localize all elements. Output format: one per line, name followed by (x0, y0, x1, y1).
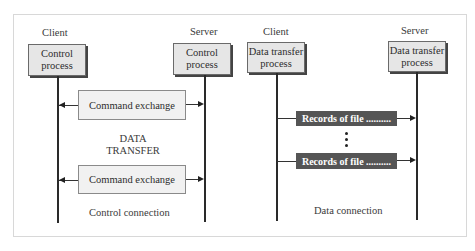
data-transfer-line2: TRANSFER (98, 145, 168, 157)
cmd2-right-arrow-icon (198, 176, 204, 182)
data-server-process-line1: Data transfer (390, 45, 445, 57)
control-server-label: Server (190, 26, 217, 37)
control-client-process-box: Control process (28, 44, 86, 76)
rec1-left-line (277, 118, 297, 119)
command-exchange-text-2: Command exchange (89, 174, 175, 185)
control-server-lifeline (204, 75, 206, 222)
cmd2-left-arrow-icon (59, 177, 65, 183)
command-exchange-box-1: Command exchange (78, 90, 186, 120)
control-client-label: Client (42, 27, 68, 38)
rec2-right-line (397, 160, 411, 161)
data-transfer-line1: DATA (98, 133, 168, 145)
records-of-file-text-2: Records of file .......... (302, 156, 391, 167)
records-of-file-box-1: Records of file .......... (296, 111, 397, 126)
control-server-process-line2: process (186, 59, 218, 71)
cmd1-left-arrow-icon (59, 102, 65, 108)
data-transfer-text: DATA TRANSFER (98, 133, 168, 157)
data-connection-caption: Data connection (314, 205, 383, 216)
ellipsis-dot-icon-2 (345, 138, 348, 141)
data-server-lifeline (416, 72, 418, 220)
rec1-right-arrow-icon (410, 115, 416, 121)
data-server-process-box: Data transfer process (388, 41, 446, 72)
records-of-file-box-2: Records of file .......... (296, 153, 397, 169)
rec2-left-line (277, 161, 297, 162)
control-client-process-line2: process (41, 60, 73, 72)
command-exchange-text-1: Command exchange (89, 100, 175, 111)
data-client-process-line1: Data transfer (249, 46, 304, 58)
data-client-process-box: Data transfer process (247, 42, 305, 73)
cmd1-right-arrow-icon (198, 101, 204, 107)
control-connection-caption: Control connection (89, 207, 170, 218)
command-exchange-box-2: Command exchange (78, 165, 186, 194)
rec2-right-arrow-icon (410, 157, 416, 163)
data-client-lifeline (276, 73, 278, 221)
control-server-process-line1: Control (186, 47, 218, 59)
data-server-process-line2: process (401, 57, 433, 69)
data-client-label: Client (263, 26, 289, 37)
data-server-label: Server (401, 25, 428, 36)
ellipsis-dot-icon-3 (345, 144, 348, 147)
ellipsis-dot-icon-1 (345, 132, 348, 135)
control-server-process-box: Control process (173, 43, 231, 75)
control-client-process-line1: Control (41, 48, 73, 60)
control-client-lifeline (57, 76, 59, 223)
rec1-right-line (397, 118, 411, 119)
records-of-file-text-1: Records of file .......... (302, 113, 391, 124)
data-client-process-line2: process (260, 58, 292, 70)
